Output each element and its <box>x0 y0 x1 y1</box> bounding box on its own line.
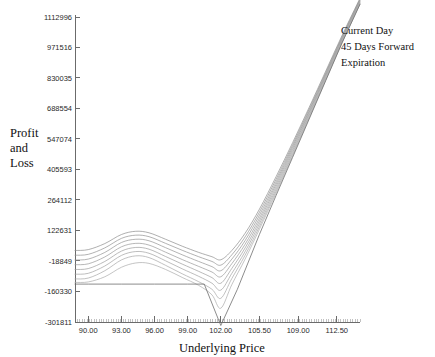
y-tick-label: 264112 <box>48 196 72 205</box>
legend-item-expiration: Expiration <box>341 57 386 68</box>
y-axis-tick-labels: 1112996971516830035688554547074405593264… <box>44 13 72 327</box>
pnl-curve <box>75 0 360 265</box>
x-tick-label: 105.50 <box>248 326 271 335</box>
options-pnl-chart: 1112996971516830035688554547074405593264… <box>0 0 435 357</box>
y-tick-label: 830035 <box>47 74 72 83</box>
legend-item-current-day: Current Day <box>341 25 394 36</box>
y-tick-label: 688554 <box>47 104 72 113</box>
y-tick-label: 405593 <box>47 165 72 174</box>
pnl-curves <box>75 0 360 325</box>
y-axis-title-line-3: Loss <box>10 156 34 170</box>
y-tick-label: -301811 <box>45 318 72 327</box>
y-axis-title-line-1: Profit <box>10 126 39 140</box>
y-tick-label: -18849 <box>49 257 72 266</box>
y-axis-ticks <box>75 17 80 322</box>
pnl-curve <box>75 0 360 260</box>
y-tick-label: 1112996 <box>44 13 72 22</box>
pnl-curve <box>75 4 360 308</box>
pnl-curve <box>75 3 360 298</box>
legend-item-45-days-forward: 45 Days Forward <box>341 41 415 52</box>
x-tick-label: 96.00 <box>145 326 164 335</box>
y-axis-title-line-2: and <box>10 141 29 155</box>
x-tick-label: 109.00 <box>287 326 310 335</box>
y-tick-label: 122631 <box>47 226 72 235</box>
pnl-curve <box>75 1 360 277</box>
y-tick-label: 547074 <box>47 135 72 144</box>
pnl-curve <box>75 2 360 284</box>
pnl-curve <box>75 0 360 271</box>
pnl-curve <box>75 3 360 291</box>
y-tick-label: 971516 <box>47 43 72 52</box>
x-tick-label: 99.00 <box>178 326 197 335</box>
pnl-curve <box>75 4 360 325</box>
x-axis-title: Underlying Price <box>179 341 265 355</box>
x-tick-label: 93.00 <box>112 326 131 335</box>
y-tick-label: -160330 <box>44 287 72 296</box>
x-tick-label: 112.50 <box>326 326 348 335</box>
x-tick-label: 90.00 <box>79 326 98 335</box>
plot-area: 1112996971516830035688554547074405593264… <box>0 0 435 357</box>
x-tick-label: 102.00 <box>209 326 232 335</box>
x-axis-tick-labels: 90.0093.0096.0099.00102.00105.50109.0011… <box>79 326 348 335</box>
